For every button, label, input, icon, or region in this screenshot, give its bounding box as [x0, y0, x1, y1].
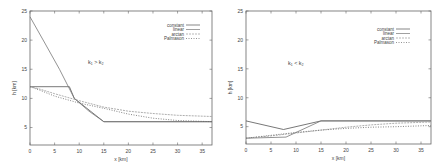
y-tick-label: 5: [24, 124, 27, 130]
y-tick-label: 25: [21, 8, 27, 14]
chart-left: 05101520253035510152025x [km]h [km]k₁ > …: [0, 0, 224, 166]
x-tick-label: 35: [199, 148, 205, 154]
x-tick-label: 25: [368, 147, 374, 153]
series-line-palmason: [30, 87, 212, 122]
x-tick-label: 30: [175, 148, 181, 154]
y-tick-label: 10: [237, 95, 243, 101]
legend-label: Palmason: [374, 40, 395, 45]
y-tick-label: 20: [21, 37, 27, 43]
x-tick-label: 10: [293, 147, 299, 153]
x-tick-label: 15: [318, 147, 324, 153]
x-axis-label: x [km]: [114, 156, 128, 162]
x-tick-label: 20: [343, 147, 349, 153]
plot-frame: [30, 11, 212, 145]
x-tick-label: 20: [126, 148, 132, 154]
x-tick-label: 5: [270, 147, 273, 153]
x-tick-label: 25: [150, 148, 156, 154]
legend-label: Palmason: [164, 36, 185, 41]
y-tick-label: 20: [237, 37, 243, 43]
y-tick-label: 5: [240, 123, 243, 129]
chart-panel-left: 05101520253035510152025x [km]h [km]k₁ > …: [0, 0, 224, 166]
chart-panel-right: 05101520253035510152025x [km]h [km]k₁ < …: [224, 0, 448, 166]
chart-right: 05101520253035510152025x [km]h [km]k₁ < …: [224, 0, 448, 166]
x-axis-label: x [km]: [332, 155, 346, 161]
plot-frame: [246, 11, 431, 144]
y-axis-label: h [km]: [227, 80, 233, 94]
x-tick-label: 5: [53, 148, 56, 154]
series-line-arctan: [30, 87, 212, 117]
x-tick-label: 10: [76, 148, 82, 154]
y-tick-label: 15: [237, 66, 243, 72]
series-line-linear: [30, 17, 212, 122]
x-tick-label: 15: [101, 148, 107, 154]
x-tick-label: 30: [393, 147, 399, 153]
series-line-constant: [30, 87, 212, 122]
series-line-arctan: [246, 122, 431, 138]
y-tick-label: 15: [21, 66, 27, 72]
x-tick-label: 35: [418, 147, 424, 153]
chart-annotation: k₁ < k₂: [288, 60, 304, 66]
x-tick-label: 0: [29, 148, 32, 154]
chart-annotation: k₁ > k₂: [88, 59, 104, 65]
y-tick-label: 10: [21, 95, 27, 101]
y-axis-label: h [km]: [11, 81, 17, 95]
x-tick-label: 0: [245, 147, 248, 153]
y-tick-label: 25: [237, 8, 243, 14]
